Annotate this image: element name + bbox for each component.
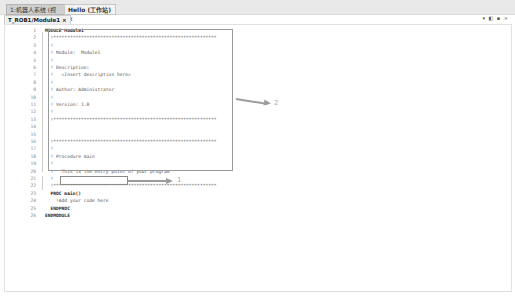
line-number: 18 (0, 153, 38, 160)
fold-margin[interactable] (42, 32, 43, 172)
code-line[interactable]: !Add your code here (45, 197, 109, 204)
line-number: 21 (0, 175, 38, 182)
line-number: 16 (0, 138, 38, 145)
highlight-box-add-code (60, 176, 128, 185)
line-number: 11 (0, 101, 38, 108)
fold-margin-proc[interactable] (42, 176, 43, 190)
line-number: 17 (0, 145, 38, 152)
arrowhead-1 (166, 178, 173, 184)
line-number: 5 (0, 57, 38, 64)
arrow-1 (128, 180, 168, 182)
line-number: 19 (0, 160, 38, 167)
line-number: 8 (0, 79, 38, 86)
line-number: 26 (0, 212, 38, 219)
line-number: 2 (0, 34, 38, 41)
callout-label-1: 1 (177, 176, 181, 184)
line-number: 23 (0, 190, 38, 197)
code-line[interactable]: PROC main() (45, 190, 81, 197)
highlight-box-header-comments (48, 29, 233, 171)
tab-robot-system-view[interactable]: 1:机器人系统 (视图) (6, 4, 66, 15)
callout-label-2: 2 (274, 99, 278, 107)
arrowhead-2 (264, 99, 272, 106)
document-tab-bar: 1:机器人系统 (视图) Hello (工作站) × (0, 0, 515, 15)
line-number: 6 (0, 64, 38, 71)
code-line[interactable]: ENDMODULE (45, 212, 70, 219)
editor-bottom-border (6, 291, 512, 292)
line-number: 14 (0, 123, 38, 130)
line-number: 4 (0, 49, 38, 56)
line-number: 13 (0, 116, 38, 123)
line-number: 20 (0, 168, 38, 175)
line-number: 15 (0, 131, 38, 138)
line-number: 12 (0, 108, 38, 115)
line-number: 9 (0, 86, 38, 93)
line-number: 7 (0, 71, 38, 78)
code-line[interactable]: ENDPROC (45, 205, 70, 212)
tab-station-hello[interactable]: Hello (工作站) × (64, 4, 116, 15)
line-number: 1 (0, 27, 38, 34)
line-number: 10 (0, 94, 38, 101)
line-number: 25 (0, 205, 38, 212)
line-number: 3 (0, 42, 38, 49)
window-control-icons[interactable]: ▾ ◧ ▪ × (482, 15, 509, 21)
line-number: 24 (0, 197, 38, 204)
line-number: 22 (0, 182, 38, 189)
code-line[interactable]: ! (45, 175, 53, 182)
